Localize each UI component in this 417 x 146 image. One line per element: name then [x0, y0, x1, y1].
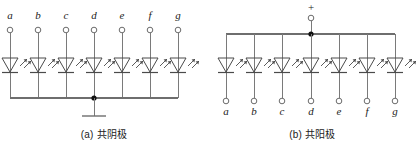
terminal-d[interactable] — [91, 27, 97, 33]
terminal-e[interactable] — [336, 98, 342, 104]
pin-label-b: b — [35, 9, 41, 21]
led-b — [30, 58, 59, 73]
led-b — [246, 58, 275, 73]
led-b-emission — [48, 59, 59, 68]
led-d — [303, 58, 332, 73]
terminal-f[interactable] — [364, 98, 370, 104]
panel-b-leds — [218, 58, 416, 73]
pin-label-c: c — [280, 105, 285, 117]
led-g — [170, 58, 199, 73]
terminal-c[interactable] — [279, 98, 285, 104]
led-a — [2, 58, 31, 73]
pin-label-d: d — [308, 105, 314, 117]
panel-b-terminals — [223, 98, 398, 104]
pin-label-a: a — [7, 9, 13, 21]
pin-label-g: g — [392, 105, 398, 117]
terminal-b[interactable] — [35, 27, 41, 33]
terminal-b[interactable] — [251, 98, 257, 104]
led-g-emission — [188, 59, 199, 68]
pin-label-e: e — [120, 9, 125, 21]
panel-b-common-anode: + a b c d e f g — [218, 1, 416, 117]
led-f — [359, 58, 388, 73]
panel-b-branch-wires — [226, 34, 395, 98]
panel-a-branch-wires — [10, 33, 178, 98]
plus-sign-label: + — [308, 1, 314, 13]
panel-a-common-cathode: a b c d e f g — [2, 9, 199, 116]
led-a-emission — [20, 59, 31, 68]
pin-label-e: e — [337, 105, 342, 117]
led-c — [274, 58, 303, 73]
terminal-d[interactable] — [308, 98, 314, 104]
led-a-emission — [236, 59, 247, 68]
led-e — [114, 58, 143, 73]
terminal-g[interactable] — [175, 27, 181, 33]
pin-label-b: b — [251, 105, 257, 117]
terminal-a[interactable] — [7, 27, 13, 33]
panel-a-terminals — [7, 27, 181, 33]
caption-panel-b: (b) 共阳极 — [208, 126, 417, 141]
pin-label-f: f — [365, 105, 370, 117]
panel-a-pin-labels: a b c d e f g — [7, 9, 181, 21]
schematic-diagram: a b c d e f g — [0, 0, 417, 146]
led-e-emission — [132, 59, 143, 68]
terminal-c[interactable] — [63, 27, 69, 33]
led-g — [387, 58, 416, 73]
led-c-emission — [292, 59, 303, 68]
pin-label-d: d — [91, 9, 97, 21]
pin-label-g: g — [175, 9, 181, 21]
led-g-emission — [405, 59, 416, 68]
pin-label-f: f — [148, 9, 153, 21]
pin-label-c: c — [64, 9, 69, 21]
led-c-emission — [76, 59, 87, 68]
led-b-emission — [264, 59, 275, 68]
led-f-emission — [160, 59, 171, 68]
led-f — [142, 58, 171, 73]
led-d-emission — [104, 59, 115, 68]
panel-a-leds — [2, 58, 199, 73]
terminal-g[interactable] — [392, 98, 398, 104]
led-c — [58, 58, 87, 73]
led-e — [331, 58, 360, 73]
terminal-positive-supply[interactable] — [308, 15, 314, 21]
led-d — [86, 58, 115, 73]
led-f-emission — [377, 59, 388, 68]
led-e-emission — [349, 59, 360, 68]
terminal-a[interactable] — [223, 98, 229, 104]
terminal-e[interactable] — [119, 27, 125, 33]
led-d-emission — [321, 59, 332, 68]
caption-panel-a: (a) 共阴极 — [0, 126, 208, 141]
led-a — [218, 58, 247, 73]
pin-label-a: a — [223, 105, 229, 117]
panel-b-pin-labels: a b c d e f g — [223, 105, 398, 117]
ground-symbol-a — [82, 98, 106, 116]
figure-root: a b c d e f g — [0, 0, 417, 146]
terminal-f[interactable] — [147, 27, 153, 33]
